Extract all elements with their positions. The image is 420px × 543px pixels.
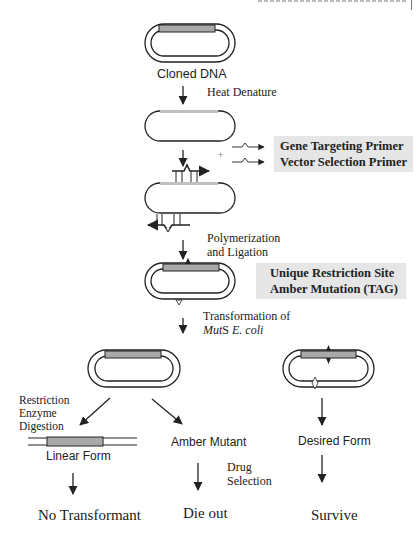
primer-callout: Gene Targeting Primer Vector Selection P… (274, 136, 413, 172)
primer-glyphs (232, 143, 264, 162)
label-selection: Selection (227, 474, 272, 488)
label-restriction: Restriction (19, 394, 69, 407)
plasmid-desired (283, 345, 374, 389)
text-s: S (222, 323, 232, 337)
arrow-to-linear (80, 398, 110, 425)
outcome-die-out: Die out (183, 505, 228, 522)
plasmid-single-strand (145, 111, 235, 141)
plasmid-mutated (145, 258, 235, 305)
label-amber-mutant: Amber Mutant (171, 435, 246, 449)
arrow-to-amber (152, 399, 182, 424)
amber-mutation-marker (176, 300, 182, 305)
plasmid-cloned-dna (145, 24, 235, 62)
label-drug: Drug (227, 460, 252, 474)
label-digestion: Digestion (19, 420, 64, 433)
label-and-ligation: and Ligation (207, 245, 268, 259)
restriction-site-marker (185, 258, 191, 264)
outcome-no-transformant: No Transformant (38, 507, 141, 524)
label-gene-targeting-primer: Gene Targeting Primer (280, 138, 407, 154)
label-desired-form: Desired Form (298, 434, 371, 448)
text-ecoli: E. coli (232, 323, 263, 337)
plasmid-primers-annealed (145, 165, 235, 232)
label-enzyme: Enzyme (19, 407, 57, 420)
outcome-survive: Survive (311, 507, 358, 524)
label-plus: + (218, 148, 223, 162)
label-unique-restriction-site: Unique Restriction Site (270, 265, 398, 281)
label-muts-ecoli: MutS E. coli (203, 323, 263, 337)
label-vector-selection-primer: Vector Selection Primer (280, 154, 407, 170)
linear-dna (28, 437, 137, 446)
label-transformation: Transformation of (203, 309, 290, 323)
label-heat-denature: Heat Denature (207, 85, 277, 99)
mutation-callout: Unique Restriction Site Amber Mutation (… (256, 263, 406, 299)
plasmid-parental (88, 350, 180, 387)
label-amber-mutation: Amber Mutation (TAG) (270, 281, 398, 297)
label-cloned-dna: Cloned DNA (157, 67, 226, 81)
text-mut: Mut (203, 323, 222, 337)
label-linear-form: Linear Form (46, 449, 111, 463)
label-polymerization: Polymerization (207, 231, 280, 245)
